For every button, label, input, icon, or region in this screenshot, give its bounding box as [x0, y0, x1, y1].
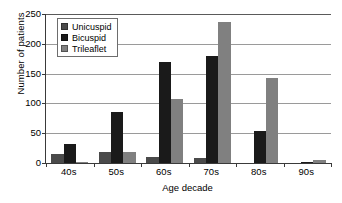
- chart-legend: UnicuspidBicuspidTrileaflet: [57, 18, 118, 57]
- x-tickmark: [331, 163, 332, 167]
- x-tick-label: 50s: [109, 166, 124, 177]
- bar: [171, 99, 183, 163]
- x-tick-label: 60s: [156, 166, 171, 177]
- y-tick-label: 250: [14, 9, 41, 19]
- legend-item: Unicuspid: [61, 21, 112, 32]
- y-tick-label: 100: [14, 99, 41, 109]
- x-axis-title: Age decade: [45, 182, 330, 193]
- bar: [159, 62, 171, 163]
- bar: [194, 158, 206, 163]
- legend-item-label: Unicuspid: [72, 22, 112, 32]
- legend-swatch-icon: [61, 45, 68, 52]
- bar: [254, 131, 266, 163]
- bar: [64, 144, 76, 163]
- bar: [313, 160, 325, 163]
- legend-swatch-icon: [61, 23, 68, 30]
- x-tick-label: 80s: [251, 166, 266, 177]
- x-tick-label: 40s: [61, 166, 76, 177]
- y-tick-label: 150: [14, 69, 41, 79]
- bar: [266, 78, 278, 163]
- legend-item: Bicuspid: [61, 32, 112, 43]
- bar: [51, 154, 63, 163]
- legend-swatch-icon: [61, 34, 68, 41]
- x-axis-tick-labels: 40s50s60s70s80s90s: [45, 166, 330, 180]
- legend-item-label: Trileaflet: [72, 44, 106, 54]
- legend-item: Trileaflet: [61, 43, 112, 54]
- y-tick-label: 200: [14, 39, 41, 49]
- bar: [123, 152, 135, 163]
- bar: [218, 22, 230, 163]
- y-tick-label: 50: [14, 128, 41, 138]
- bar: [146, 157, 158, 163]
- x-tick-label: 90s: [299, 166, 314, 177]
- legend-item-label: Bicuspid: [72, 33, 106, 43]
- bar: [99, 152, 111, 163]
- bar: [111, 112, 123, 163]
- bar: [76, 162, 88, 163]
- x-tick-label: 70s: [204, 166, 219, 177]
- bar: [301, 162, 313, 163]
- bar: [206, 56, 218, 163]
- bar-chart-figure: Number of patients 050100150200250 40s50…: [0, 0, 342, 203]
- y-axis-tick-labels: 050100150200250: [14, 0, 41, 203]
- y-tick-label: 0: [14, 158, 41, 168]
